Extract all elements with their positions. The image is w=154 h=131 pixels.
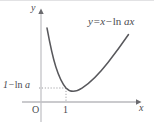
curve-label-lead: y=x− xyxy=(88,15,113,27)
y-axis-label: y xyxy=(31,3,35,13)
y-tick-ln: ln xyxy=(15,79,23,90)
function-curve xyxy=(47,28,129,91)
curve-equation-label: y=x−ln ax xyxy=(88,16,134,27)
y-tick-label-minimum: 1−ln a xyxy=(3,80,30,90)
function-graph-figure: y=x−ln ax y x O 1 1−ln a xyxy=(0,0,154,131)
x-axis-label: x xyxy=(139,103,143,113)
curve-label-tail: ax xyxy=(121,15,134,27)
y-tick-tail: a xyxy=(23,79,31,90)
origin-label: O xyxy=(32,105,39,115)
y-axis-arrow-icon xyxy=(38,9,43,15)
y-tick-lead: 1− xyxy=(3,79,15,90)
x-tick-label-1: 1 xyxy=(63,105,68,115)
curve-label-ln: ln xyxy=(113,15,122,27)
